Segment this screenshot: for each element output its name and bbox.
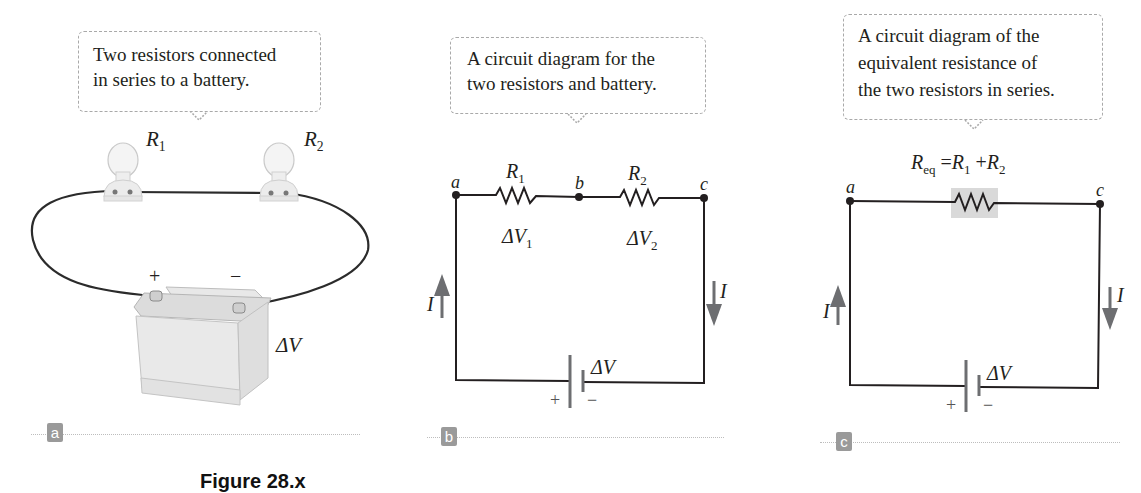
callout-panel-c: A circuit diagram of the equivalent resi…: [843, 14, 1103, 120]
current-arrow-up-icon: [434, 274, 450, 318]
node-a-label: a: [451, 172, 460, 193]
callout-line-1: A circuit diagram of the: [858, 24, 1040, 48]
node-a-label: a: [846, 177, 855, 198]
label-delta-v2: ΔV2: [627, 227, 657, 254]
bulb-r2-icon: [260, 143, 298, 201]
label-r2: R2: [304, 127, 324, 155]
current-label-left: I: [823, 300, 830, 323]
callout-line-2: two resistors and battery.: [467, 72, 657, 96]
figure-caption: Figure 28.x: [200, 470, 306, 493]
current-arrow-up-icon: [830, 285, 846, 325]
battery-minus-label: −: [230, 265, 241, 288]
equation-req: Req =R1 +R2: [911, 151, 1006, 178]
node-c-label: c: [700, 174, 708, 195]
label-delta-v: ΔV: [591, 356, 615, 379]
label-delta-v: ΔV: [987, 362, 1011, 385]
battery-minus-label: −: [587, 390, 597, 411]
bulb-r1-icon: [104, 143, 142, 201]
battery-minus-label: −: [983, 395, 993, 416]
callout-line-2: in series to a battery.: [93, 68, 250, 92]
panel-b-circuit: [456, 188, 704, 408]
callout-panel-b: A circuit diagram for the two resistors …: [450, 37, 706, 114]
current-arrow-down-icon: [1102, 287, 1118, 330]
panel-label-b: b: [441, 427, 457, 446]
callout-panel-a: Two resistors connected in series to a b…: [78, 31, 321, 112]
panel-label-c: c: [836, 432, 852, 451]
battery-plus-label: +: [149, 265, 160, 288]
callout-line-1: A circuit diagram for the: [467, 47, 655, 71]
label-r2: R2: [628, 162, 647, 189]
label-r1: R1: [146, 127, 166, 155]
label-delta-v: ΔV: [276, 333, 301, 358]
panel-a-rule: [31, 434, 360, 435]
panel-c-circuit: [850, 188, 1100, 412]
battery-plus-label: +: [550, 390, 560, 411]
panel-c-rule: [820, 442, 1120, 443]
callout-line-3: the two resistors in series.: [858, 78, 1055, 102]
callout-line-1: Two resistors connected: [93, 43, 276, 67]
callout-line-2: equivalent resistance of: [858, 51, 1037, 75]
label-delta-v1: ΔV1: [502, 225, 532, 252]
node-b-label: b: [575, 173, 584, 194]
battery-plus-label: +: [946, 395, 956, 416]
panel-label-a: a: [47, 423, 63, 442]
node-c-label: c: [1096, 180, 1104, 201]
current-label-right: I: [1117, 284, 1124, 307]
current-label-left: I: [427, 293, 434, 316]
current-label-right: I: [720, 280, 727, 303]
label-r1: R1: [506, 160, 525, 187]
battery-icon: [134, 287, 271, 405]
panel-b-rule: [427, 437, 724, 438]
